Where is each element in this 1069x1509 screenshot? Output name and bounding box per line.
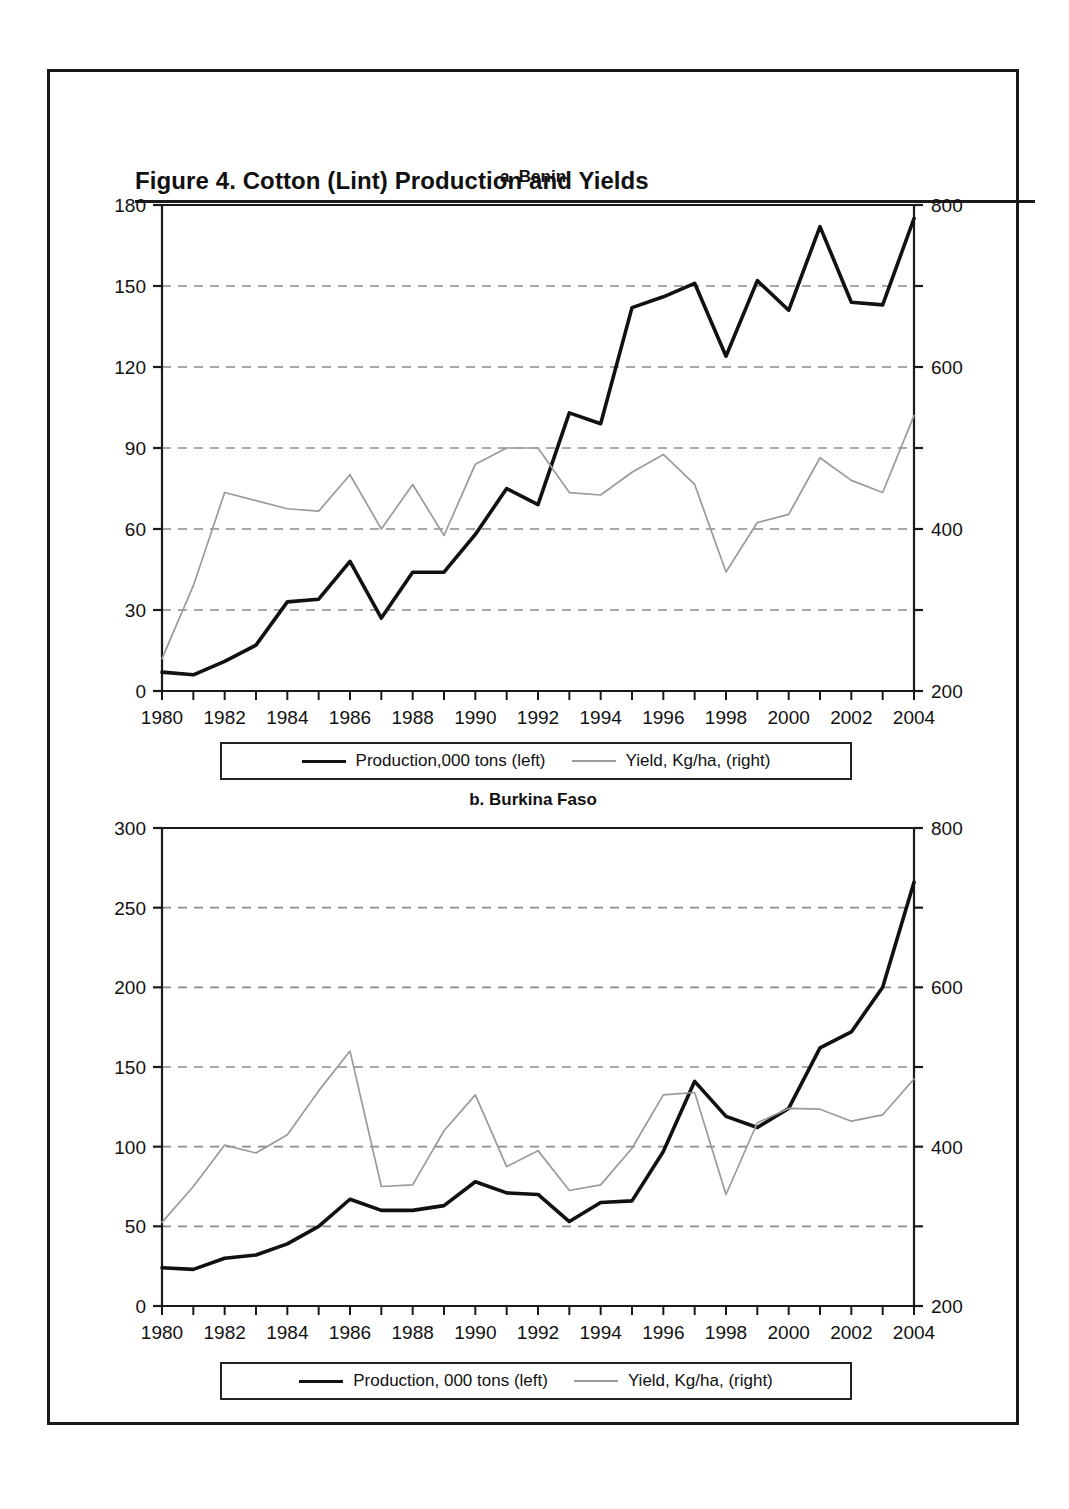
svg-text:800: 800 — [931, 195, 963, 216]
svg-text:120: 120 — [114, 357, 146, 378]
svg-text:1984: 1984 — [266, 707, 309, 728]
svg-text:30: 30 — [125, 600, 146, 621]
svg-text:2000: 2000 — [768, 707, 810, 728]
svg-text:0: 0 — [135, 1296, 146, 1317]
panel-b-title: b. Burkina Faso — [50, 790, 1016, 810]
legend-label-yield-a: Yield, Kg/ha, (right) — [626, 751, 771, 771]
legend-label-production-a: Production,000 tons (left) — [356, 751, 546, 771]
yield-line-swatch-icon — [572, 760, 616, 762]
svg-text:1998: 1998 — [705, 707, 747, 728]
svg-text:2004: 2004 — [893, 707, 936, 728]
legend-item-production-a: Production,000 tons (left) — [302, 751, 546, 771]
panel-a-title: a. Benin — [50, 167, 1016, 187]
svg-text:100: 100 — [114, 1137, 146, 1158]
legend-benin: Production,000 tons (left) Yield, Kg/ha,… — [220, 742, 852, 780]
svg-text:0: 0 — [135, 681, 146, 702]
legend-burkina-faso: Production, 000 tons (left) Yield, Kg/ha… — [220, 1362, 852, 1400]
svg-text:1994: 1994 — [580, 1322, 623, 1343]
svg-text:1984: 1984 — [266, 1322, 309, 1343]
legend-item-yield-b: Yield, Kg/ha, (right) — [574, 1371, 773, 1391]
svg-text:150: 150 — [114, 276, 146, 297]
svg-text:1982: 1982 — [204, 1322, 246, 1343]
svg-text:1982: 1982 — [204, 707, 246, 728]
svg-text:50: 50 — [125, 1216, 146, 1237]
svg-text:1996: 1996 — [642, 1322, 684, 1343]
svg-text:1988: 1988 — [392, 707, 434, 728]
svg-text:200: 200 — [931, 1296, 963, 1317]
legend-item-yield-a: Yield, Kg/ha, (right) — [572, 751, 771, 771]
svg-text:1988: 1988 — [392, 1322, 434, 1343]
svg-text:600: 600 — [931, 977, 963, 998]
svg-text:1992: 1992 — [517, 707, 559, 728]
svg-text:1986: 1986 — [329, 707, 371, 728]
svg-text:2004: 2004 — [893, 1322, 936, 1343]
svg-text:200: 200 — [114, 977, 146, 998]
legend-label-yield-b: Yield, Kg/ha, (right) — [628, 1371, 773, 1391]
panel-benin: a. Benin 0306090120150180200400600800198… — [50, 167, 1016, 787]
svg-text:1998: 1998 — [705, 1322, 747, 1343]
svg-text:1990: 1990 — [454, 1322, 496, 1343]
svg-text:90: 90 — [125, 438, 146, 459]
svg-text:180: 180 — [114, 195, 146, 216]
svg-text:1992: 1992 — [517, 1322, 559, 1343]
svg-text:1980: 1980 — [141, 707, 183, 728]
svg-text:2002: 2002 — [830, 707, 872, 728]
svg-text:60: 60 — [125, 519, 146, 540]
svg-text:300: 300 — [114, 818, 146, 839]
legend-item-production-b: Production, 000 tons (left) — [299, 1371, 548, 1391]
svg-text:250: 250 — [114, 898, 146, 919]
yield-line-swatch-icon — [574, 1380, 618, 1382]
svg-text:1994: 1994 — [580, 707, 623, 728]
panel-burkina-faso: b. Burkina Faso 050100150200250300200400… — [50, 790, 1016, 1390]
svg-text:600: 600 — [931, 357, 963, 378]
production-line-swatch-icon — [299, 1380, 343, 1383]
svg-text:2000: 2000 — [768, 1322, 810, 1343]
svg-text:150: 150 — [114, 1057, 146, 1078]
svg-text:800: 800 — [931, 818, 963, 839]
legend-label-production-b: Production, 000 tons (left) — [353, 1371, 548, 1391]
svg-text:400: 400 — [931, 519, 963, 540]
svg-text:1996: 1996 — [642, 707, 684, 728]
svg-text:1980: 1980 — [141, 1322, 183, 1343]
svg-text:1990: 1990 — [454, 707, 496, 728]
svg-text:400: 400 — [931, 1137, 963, 1158]
production-line-swatch-icon — [302, 760, 346, 763]
svg-text:200: 200 — [931, 681, 963, 702]
svg-text:1986: 1986 — [329, 1322, 371, 1343]
burkina-faso-plot: 0501001502002503002004006008001980198219… — [50, 812, 1016, 1392]
figure-page: Figure 4. Cotton (Lint) Production and Y… — [0, 0, 1069, 1509]
benin-plot: 0306090120150180200400600800198019821984… — [50, 189, 1016, 789]
svg-text:2002: 2002 — [830, 1322, 872, 1343]
figure-frame: Figure 4. Cotton (Lint) Production and Y… — [47, 69, 1019, 1425]
